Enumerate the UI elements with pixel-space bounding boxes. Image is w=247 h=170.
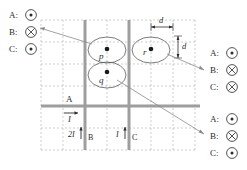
wire-b-label: B <box>88 133 93 142</box>
legend-right-lower-row-a-label: A: <box>210 114 219 124</box>
legend-right-lower-row-c-label: C: <box>210 148 219 158</box>
legend-top-left-row-a-label: A: <box>9 10 18 20</box>
legend-right-upper-row-b-label: B: <box>210 65 219 75</box>
point-r-label: r <box>143 47 147 57</box>
point-p-label: p <box>98 51 104 61</box>
legend-right-upper-row-c-label: C: <box>210 82 219 92</box>
point-q-dot <box>105 70 110 75</box>
legend-top-left-row-b-label: B: <box>9 27 18 37</box>
diagram-svg: A I B 2I C I p q <box>0 0 247 170</box>
legend-right-lower-row-b-label: B: <box>210 131 219 141</box>
wire-c-label: C <box>132 133 137 142</box>
wire-a-label: A <box>66 94 73 104</box>
point-p-dot <box>105 47 110 52</box>
legend-right-upper-row-a-label: A: <box>210 48 219 58</box>
legend-top-left-row-c-label: C: <box>9 44 18 54</box>
wire-c-current-label: I <box>115 130 119 139</box>
point-q-label: q <box>99 75 104 85</box>
point-r-dot <box>149 47 154 52</box>
wire-b-current-label: 2I <box>68 130 75 139</box>
figure-canvas: A I B 2I C I p q <box>0 0 247 170</box>
